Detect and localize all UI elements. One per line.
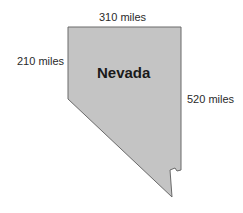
right-edge-label: 520 miles — [187, 93, 234, 105]
state-name: Nevada — [97, 64, 150, 81]
left-edge-label: 210 miles — [17, 55, 64, 67]
top-edge-label: 310 miles — [99, 11, 146, 23]
nevada-shape — [68, 27, 181, 197]
nevada-diagram — [0, 0, 243, 213]
